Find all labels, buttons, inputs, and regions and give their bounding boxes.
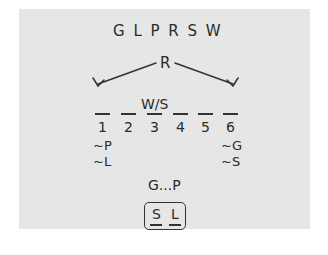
boxed-pair-second: L — [171, 207, 179, 222]
slot-number: 4 — [173, 119, 188, 135]
boxed-pair — [144, 202, 186, 230]
slot-line-5 — [198, 113, 213, 115]
slot-line-4 — [173, 113, 188, 115]
slot-number: 2 — [121, 119, 136, 135]
left-constraint: ~L — [93, 154, 111, 169]
underline — [169, 224, 181, 226]
sequence-rule: G...P — [148, 178, 181, 193]
root-label: R — [160, 56, 170, 71]
slot-number: 5 — [198, 119, 213, 135]
slot-line-2 — [121, 113, 136, 115]
right-constraint: ~S — [221, 154, 240, 169]
slot-line-3 — [147, 113, 162, 115]
underline — [150, 224, 162, 226]
slot-line-1 — [95, 113, 110, 115]
boxed-pair-first: S — [152, 207, 161, 222]
left-constraint: ~P — [93, 138, 112, 153]
slot-number: 3 — [147, 119, 162, 135]
slot-annotation: W/S — [141, 97, 168, 112]
slot-line-6 — [223, 113, 238, 115]
right-constraint: ~G — [221, 138, 242, 153]
slot-number: 1 — [95, 119, 110, 135]
slot-number: 6 — [223, 119, 238, 135]
